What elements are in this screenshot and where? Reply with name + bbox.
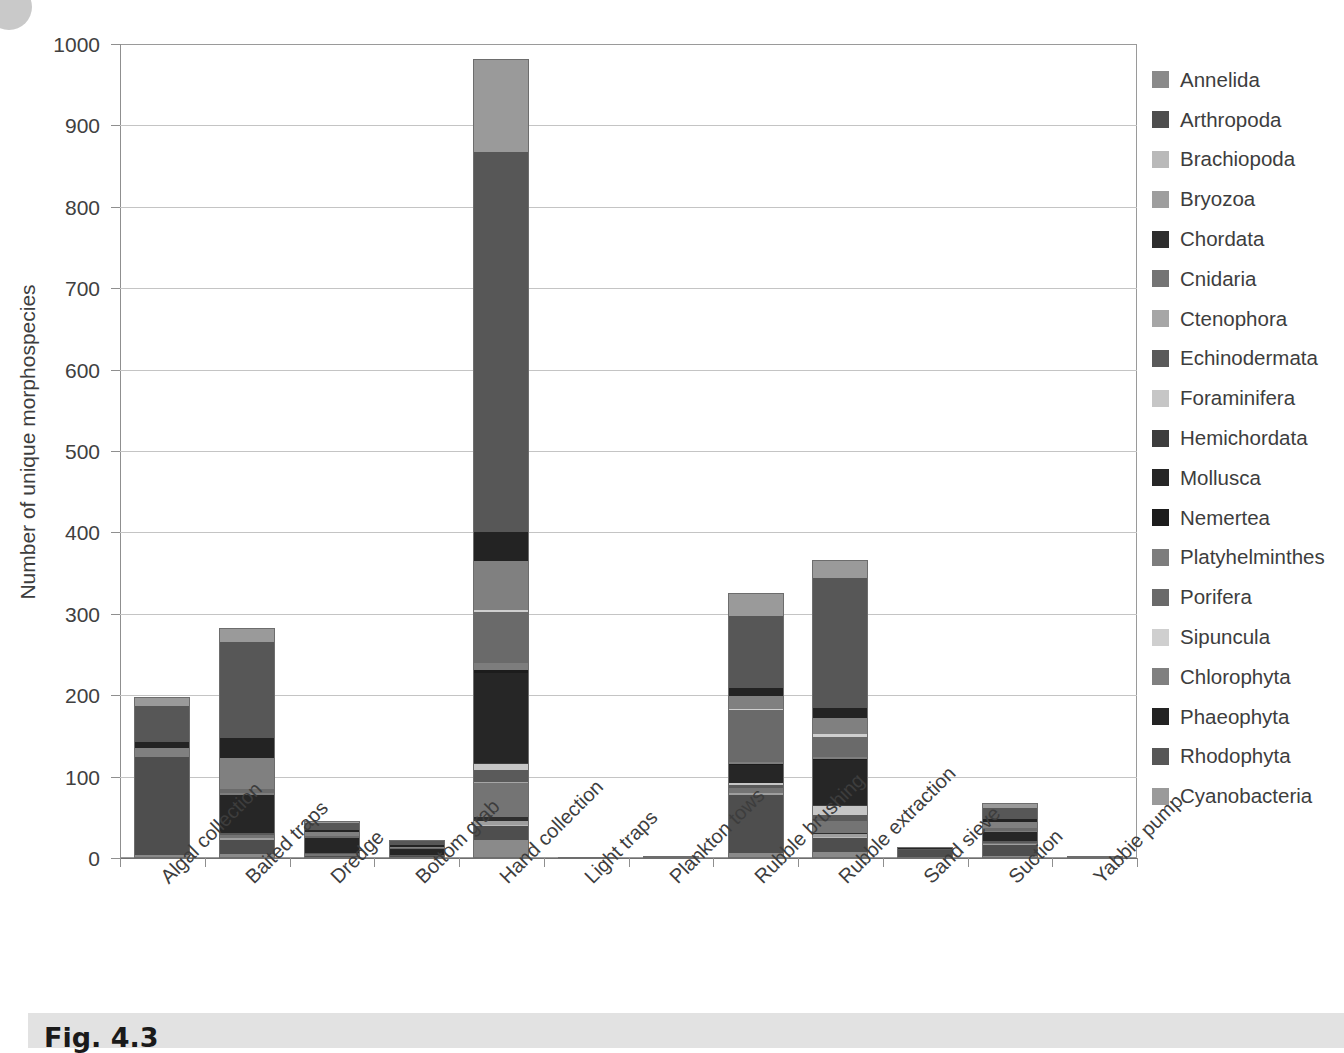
legend-label: Echinodermata: [1180, 346, 1318, 370]
legend-label: Ctenophora: [1180, 307, 1287, 331]
bar-segment: [812, 578, 868, 708]
legend-item-cyanobacteria[interactable]: Cyanobacteria: [1152, 776, 1344, 816]
y-tick-mark: [111, 858, 120, 859]
bar-bottom-grab[interactable]: [389, 0, 445, 858]
legend-item-arthropoda[interactable]: Arthropoda: [1152, 100, 1344, 140]
legend-swatch-icon: [1152, 668, 1169, 685]
x-tick-mark: [1052, 858, 1053, 867]
y-tick-label: 600: [20, 359, 100, 383]
y-tick-label: 400: [20, 521, 100, 545]
bar-rubble-brushing[interactable]: [728, 0, 784, 858]
legend-item-platyhelminthes[interactable]: Platyhelminthes: [1152, 538, 1344, 578]
bar-dredge[interactable]: [304, 0, 360, 858]
x-tick-mark: [459, 858, 460, 867]
legend-item-chlorophyta[interactable]: Chlorophyta: [1152, 657, 1344, 697]
legend-swatch-icon: [1152, 629, 1169, 646]
legend-item-rhodophyta[interactable]: Rhodophyta: [1152, 737, 1344, 777]
bar-rubble-extraction[interactable]: [812, 0, 868, 858]
x-tick-mark: [798, 858, 799, 867]
legend-swatch-icon: [1152, 390, 1169, 407]
bar-segment: [728, 765, 784, 783]
legend-label: Chordata: [1180, 227, 1264, 251]
legend-swatch-icon: [1152, 708, 1169, 725]
bar-yabbie-pump[interactable]: [1067, 0, 1123, 858]
legend-label: Chlorophyta: [1180, 665, 1291, 689]
legend-item-mollusca[interactable]: Mollusca: [1152, 458, 1344, 498]
legend-item-nemertea[interactable]: Nemertea: [1152, 498, 1344, 538]
y-tick-label: 300: [20, 603, 100, 627]
x-tick-mark: [544, 858, 545, 867]
x-tick-mark: [713, 858, 714, 867]
legend-label: Cyanobacteria: [1180, 784, 1312, 808]
y-tick-mark: [111, 288, 120, 289]
bar-segment: [473, 152, 529, 531]
bar-sand-sieve[interactable]: [897, 0, 953, 858]
y-tick-label: 500: [20, 440, 100, 464]
legend-item-sipuncula[interactable]: Sipuncula: [1152, 617, 1344, 657]
legend-label: Sipuncula: [1180, 625, 1270, 649]
bar-plankton-tows[interactable]: [643, 0, 699, 858]
legend-swatch-icon: [1152, 231, 1169, 248]
bar-baited-traps[interactable]: [219, 0, 275, 858]
bar-segment: [728, 696, 784, 709]
bar-segment: [473, 673, 529, 763]
y-tick-label: 1000: [20, 33, 100, 57]
legend-swatch-icon: [1152, 191, 1169, 208]
legend-item-chordata[interactable]: Chordata: [1152, 219, 1344, 259]
y-tick-label: 0: [20, 847, 100, 871]
legend-label: Arthropoda: [1180, 108, 1281, 132]
legend-label: Porifera: [1180, 585, 1252, 609]
y-tick-mark: [111, 207, 120, 208]
legend-swatch-icon: [1152, 549, 1169, 566]
bar-segment: [473, 612, 529, 662]
bar-segment: [812, 737, 868, 757]
y-tick-mark: [111, 695, 120, 696]
legend-swatch-icon: [1152, 788, 1169, 805]
y-tick-mark: [111, 125, 120, 126]
legend-label: Hemichordata: [1180, 426, 1308, 450]
legend-item-brachiopoda[interactable]: Brachiopoda: [1152, 140, 1344, 180]
legend-item-phaeophyta[interactable]: Phaeophyta: [1152, 697, 1344, 737]
x-tick-mark: [1137, 858, 1138, 867]
legend-swatch-icon: [1152, 350, 1169, 367]
legend-item-echinodermata[interactable]: Echinodermata: [1152, 339, 1344, 379]
bar-algal-collection[interactable]: [134, 0, 190, 858]
legend-swatch-icon: [1152, 71, 1169, 88]
figure-caption: Fig. 4.3: [44, 1022, 159, 1053]
x-tick-mark: [968, 858, 969, 867]
legend-item-annelida[interactable]: Annelida: [1152, 60, 1344, 100]
y-tick-label: 900: [20, 114, 100, 138]
legend: AnnelidaArthropodaBrachiopodaBryozoaChor…: [1152, 60, 1344, 816]
legend-swatch-icon: [1152, 748, 1169, 765]
bar-segment: [219, 738, 275, 758]
bar-segment: [473, 663, 529, 670]
bar-segment: [473, 770, 529, 781]
legend-item-bryozoa[interactable]: Bryozoa: [1152, 179, 1344, 219]
legend-swatch-icon: [1152, 430, 1169, 447]
y-tick-label: 200: [20, 684, 100, 708]
legend-item-cnidaria[interactable]: Cnidaria: [1152, 259, 1344, 299]
legend-swatch-icon: [1152, 509, 1169, 526]
y-tick-label: 700: [20, 277, 100, 301]
x-tick-mark: [629, 858, 630, 867]
caption-band: [28, 1013, 1344, 1048]
bar-segment: [812, 708, 868, 718]
legend-item-foraminifera[interactable]: Foraminifera: [1152, 378, 1344, 418]
bar-hand-collection[interactable]: [473, 0, 529, 858]
x-tick-mark: [883, 858, 884, 867]
bar-segment: [134, 706, 190, 742]
legend-label: Annelida: [1180, 68, 1260, 92]
y-tick-label: 100: [20, 766, 100, 790]
legend-item-hemichordata[interactable]: Hemichordata: [1152, 418, 1344, 458]
bar-segment: [134, 748, 190, 757]
bar-segment: [728, 594, 784, 617]
x-tick-mark: [205, 858, 206, 867]
legend-item-porifera[interactable]: Porifera: [1152, 577, 1344, 617]
y-tick-label: 800: [20, 196, 100, 220]
bar-segment: [219, 628, 275, 642]
bar-suction[interactable]: [982, 0, 1038, 858]
bar-light-traps[interactable]: [558, 0, 614, 858]
legend-label: Foraminifera: [1180, 386, 1295, 410]
legend-item-ctenophora[interactable]: Ctenophora: [1152, 299, 1344, 339]
